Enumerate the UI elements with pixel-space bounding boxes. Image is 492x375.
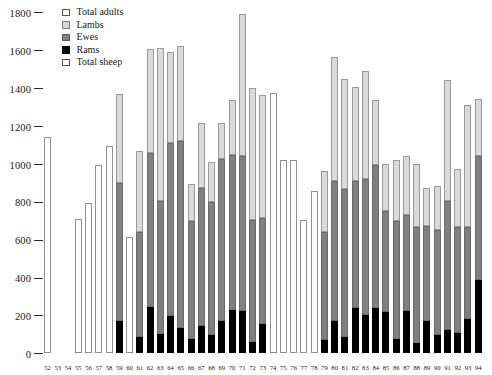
bar-segment-ewes	[116, 183, 123, 320]
chart-bar	[188, 184, 195, 353]
bar-segment-rams	[413, 343, 420, 353]
chart-bar	[413, 164, 420, 353]
y-axis-tick-mark	[34, 164, 43, 165]
bar-segment-lambs	[147, 49, 154, 153]
legend-item-total-adults: Total adults	[62, 6, 123, 19]
bar-segment-lambs	[321, 171, 328, 232]
bar-segment-rams	[177, 328, 184, 353]
chart-bar	[75, 219, 82, 354]
y-axis-tick-mark	[34, 50, 43, 51]
bar-segment-lambs	[362, 71, 369, 179]
y-axis-tick-mark	[34, 240, 43, 241]
bar-segment-lambs	[382, 164, 389, 211]
chart-bar	[95, 165, 102, 353]
chart-bar	[249, 88, 256, 353]
chart-bar	[239, 14, 246, 353]
y-axis-tick: 1000	[10, 158, 43, 170]
bar-segment-lambs	[208, 162, 215, 203]
white-swatch	[62, 9, 70, 17]
bar-segment-total-sheep	[290, 160, 297, 353]
white-swatch	[62, 59, 70, 67]
y-axis-tick-mark	[34, 278, 43, 279]
bar-segment-rams	[198, 326, 205, 353]
bar-segment-rams	[188, 339, 195, 353]
legend-item-lambs: Lambs	[62, 19, 123, 32]
chart-bar	[270, 93, 277, 353]
y-axis-tick: 1200	[10, 120, 43, 132]
bar-segment-lambs	[454, 169, 461, 227]
legend-item-label: Lambs	[77, 19, 104, 32]
y-axis-tick-label: 1200	[10, 122, 31, 133]
legend-item-total-sheep: Total sheep	[62, 56, 123, 69]
chart-bar	[259, 95, 266, 353]
mid-gray-swatch	[62, 34, 70, 42]
bar-segment-ewes	[434, 230, 441, 335]
y-axis-tick-label: 1400	[10, 84, 31, 95]
chart-bar	[464, 105, 471, 353]
y-axis-tick-label: 800	[15, 197, 31, 208]
y-axis-tick-mark	[34, 12, 43, 13]
bar-segment-total-sheep	[270, 93, 277, 353]
bar-segment-lambs	[444, 80, 451, 201]
chart-bar	[454, 169, 461, 353]
chart-bar	[362, 71, 369, 353]
bar-segment-ewes	[423, 226, 430, 321]
bar-segment-total-sheep	[85, 203, 92, 353]
bar-segment-lambs	[188, 184, 195, 221]
bar-segment-ewes	[403, 215, 410, 312]
bar-segment-lambs	[116, 94, 123, 183]
bar-segment-rams	[341, 337, 348, 353]
bar-segment-rams	[157, 334, 164, 353]
y-axis-tick-mark	[34, 126, 43, 127]
y-axis-tick-label: 400	[15, 273, 31, 284]
bar-segment-lambs	[239, 14, 246, 156]
bar-segment-ewes	[167, 143, 174, 316]
bar-segment-lambs	[167, 52, 174, 143]
chart-bar	[331, 57, 338, 353]
bar-segment-lambs	[413, 164, 420, 227]
bar-segment-ewes	[229, 155, 236, 310]
y-axis-tick: 800	[15, 195, 43, 207]
bar-segment-lambs	[157, 48, 164, 201]
y-axis-tick: 1400	[10, 82, 43, 94]
bar-segment-rams	[259, 324, 266, 353]
bar-segment-rams	[475, 280, 482, 353]
bar-segment-total-sheep	[44, 137, 51, 353]
chart-bar	[321, 171, 328, 353]
chart-legend: Total adultsLambsEwesRamsTotal sheep	[62, 6, 123, 69]
bar-segment-lambs	[393, 160, 400, 222]
bar-segment-ewes	[331, 181, 338, 321]
bar-segment-lambs	[475, 99, 482, 156]
legend-item-ewes: Ewes	[62, 31, 123, 44]
bar-segment-ewes	[259, 218, 266, 324]
bar-segment-rams	[116, 321, 123, 353]
bar-segment-rams	[229, 310, 236, 353]
bar-segment-lambs	[403, 156, 410, 215]
chart-bar	[157, 48, 164, 353]
chart-bar	[444, 80, 451, 353]
bar-segment-total-sheep	[300, 220, 307, 353]
bar-segment-rams	[403, 311, 410, 353]
bar-segment-rams	[434, 335, 441, 353]
chart-bar	[167, 52, 174, 353]
bar-segment-ewes	[208, 202, 215, 335]
y-axis-tick-mark	[34, 353, 43, 354]
chart-bar	[434, 186, 441, 353]
bar-segment-ewes	[321, 232, 328, 340]
bar-segment-lambs	[372, 100, 379, 164]
bar-segment-lambs	[249, 88, 256, 221]
bar-segment-ewes	[475, 156, 482, 280]
bar-segment-total-sheep	[106, 146, 113, 353]
bar-segment-lambs	[341, 79, 348, 189]
bar-segment-lambs	[259, 95, 266, 217]
sheep-population-bar-chart: 020040060080010001200140016001800 525354…	[0, 0, 492, 375]
bar-segment-ewes	[352, 181, 359, 309]
bar-segment-lambs	[331, 57, 338, 180]
bar-segment-lambs	[198, 123, 205, 188]
legend-item-label: Total sheep	[77, 56, 123, 69]
legend-item-rams: Rams	[62, 44, 123, 57]
bar-segment-ewes	[382, 211, 389, 312]
y-axis-tick-mark	[34, 202, 43, 203]
y-axis-tick-label: 600	[15, 235, 31, 246]
chart-bar	[106, 146, 113, 353]
